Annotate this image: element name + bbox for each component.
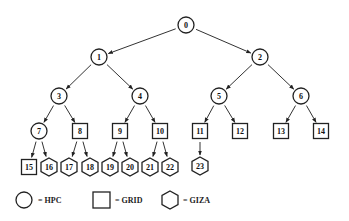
edge-0-1	[108, 29, 175, 54]
node-20: 20	[122, 158, 138, 176]
node-1: 1	[91, 49, 107, 65]
edge-0-2	[196, 29, 251, 53]
node-16: 16	[41, 158, 57, 176]
node-label: 8	[78, 127, 82, 136]
node-label: 10	[156, 127, 164, 136]
tree-diagram: 01234567891011121314151617181920212223 =…	[0, 0, 349, 221]
node-9: 9	[113, 124, 128, 139]
node-label: 12	[236, 127, 244, 136]
node-label: 5	[217, 92, 221, 101]
edge-2-6	[268, 65, 294, 90]
node-23: 23	[192, 157, 208, 175]
node-label: 17	[65, 163, 73, 172]
edge-1-4	[107, 65, 133, 90]
node-8: 8	[73, 124, 88, 139]
node-14: 14	[314, 124, 329, 139]
node-22: 22	[162, 158, 178, 176]
edge-5-11	[205, 106, 214, 123]
node-13: 13	[274, 124, 289, 139]
legend: = HPC = GRID = GIZA	[16, 191, 210, 209]
node-0: 0	[178, 17, 194, 33]
node-label: 9	[118, 127, 122, 136]
edge-9-20	[123, 142, 127, 157]
node-label: 18	[86, 163, 94, 172]
edge-5-12	[225, 105, 235, 122]
edge-3-8	[65, 105, 75, 122]
node-label: 15	[25, 163, 33, 172]
legend-item-grid: = GRID	[93, 192, 143, 208]
node-label: 3	[57, 92, 61, 101]
edge-2-5	[226, 65, 252, 90]
edge-4-10	[145, 106, 155, 123]
legend-label-hpc: = HPC	[38, 196, 62, 205]
legend-item-giza: = GIZA	[162, 191, 210, 209]
node-19: 19	[102, 158, 118, 176]
node-11: 11	[193, 124, 208, 139]
node-3: 3	[51, 88, 67, 104]
edge-3-7	[44, 106, 54, 123]
node-18: 18	[82, 158, 98, 176]
edge-9-19	[113, 142, 117, 157]
edge-8-17	[72, 142, 77, 157]
edge-8-18	[83, 142, 87, 157]
legend-item-hpc: = HPC	[16, 192, 62, 208]
nodes-layer: 01234567891011121314151617181920212223	[22, 17, 329, 176]
node-6: 6	[293, 88, 309, 104]
edge-10-22	[163, 142, 167, 157]
node-label: 14	[317, 127, 325, 136]
legend-label-giza: = GIZA	[183, 196, 210, 205]
edge-6-14	[306, 106, 316, 123]
edge-7-15	[32, 142, 36, 158]
node-label: 21	[146, 163, 154, 172]
node-5: 5	[211, 88, 227, 104]
node-10: 10	[153, 124, 168, 139]
node-2: 2	[252, 49, 268, 65]
edge-7-16	[42, 142, 46, 157]
node-label: 20	[126, 163, 134, 172]
node-17: 17	[61, 158, 77, 176]
node-label: 7	[37, 127, 41, 136]
circle-icon	[16, 192, 32, 208]
node-label: 22	[166, 163, 174, 172]
edge-10-21	[153, 142, 157, 157]
node-label: 1	[97, 53, 101, 62]
node-label: 16	[45, 163, 53, 172]
node-12: 12	[233, 124, 248, 139]
node-label: 0	[184, 21, 188, 30]
node-label: 19	[106, 163, 114, 172]
node-label: 2	[258, 53, 262, 62]
edge-4-9	[125, 106, 135, 123]
edge-6-13	[286, 106, 296, 123]
node-label: 4	[138, 92, 142, 101]
square-icon	[93, 192, 110, 208]
node-label: 11	[196, 127, 204, 136]
hexagon-icon	[162, 191, 178, 209]
node-label: 23	[196, 162, 204, 171]
legend-label-grid: = GRID	[115, 196, 143, 205]
edge-1-3	[66, 65, 91, 89]
node-label: 13	[277, 127, 285, 136]
node-7: 7	[31, 123, 47, 139]
node-4: 4	[132, 88, 148, 104]
node-label: 6	[299, 92, 303, 101]
node-15: 15	[22, 160, 37, 175]
node-21: 21	[142, 158, 158, 176]
